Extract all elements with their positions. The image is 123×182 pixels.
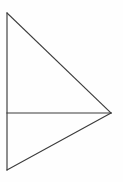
figure-canvas <box>0 0 123 182</box>
lower-hypotenuse-line <box>7 113 111 170</box>
upper-hypotenuse-line <box>7 13 111 113</box>
line-drawing-svg <box>0 0 123 182</box>
